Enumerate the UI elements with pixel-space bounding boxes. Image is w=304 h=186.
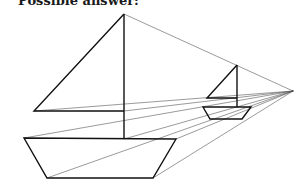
large-hull (24, 138, 176, 178)
guide-line-hull-bottom-left (47, 91, 293, 178)
large-boat (24, 14, 176, 178)
perspective-drawing (0, 0, 304, 186)
guide-line-sail-left (34, 91, 293, 111)
guide-line-hull-bottom-right (153, 91, 293, 178)
small-hull (203, 107, 251, 119)
small-sail (207, 65, 237, 98)
guide-line-sail-top (124, 14, 293, 91)
vanishing-point (292, 90, 294, 92)
construction-lines (24, 14, 293, 178)
large-sail (34, 14, 124, 111)
guide-line-sail-base (124, 91, 293, 111)
guide-line-hull-top-left (24, 91, 293, 138)
